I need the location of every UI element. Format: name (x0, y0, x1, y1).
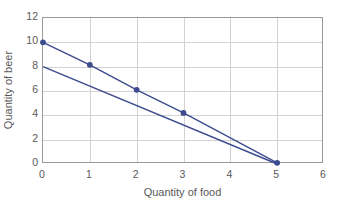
data-point-marker (181, 110, 187, 116)
x-axis-tick-labels: 0123456 (42, 168, 323, 182)
data-point-marker (40, 39, 46, 45)
data-point-marker (134, 87, 140, 93)
series-plot (43, 18, 324, 164)
series-line (43, 67, 277, 164)
x-tick-label: 5 (261, 168, 291, 180)
data-point-marker (87, 62, 93, 68)
x-tick-label: 2 (121, 168, 151, 180)
x-tick-label: 0 (27, 168, 57, 180)
x-axis-title: Quantity of food (42, 186, 323, 198)
x-tick-label: 3 (168, 168, 198, 180)
chart-container: 024681012 0123456 Quantity of food Quant… (0, 0, 338, 207)
x-tick-label: 1 (74, 168, 104, 180)
x-tick-label: 6 (308, 168, 338, 180)
series-line (43, 42, 277, 162)
x-tick-label: 4 (214, 168, 244, 180)
plot-area (42, 17, 323, 163)
y-axis-title: Quantity of beer (2, 51, 14, 129)
y-axis-title-wrap: Quantity of beer (0, 17, 16, 163)
